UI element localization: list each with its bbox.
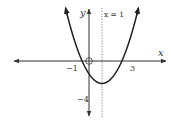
tick-label-3: 3: [130, 64, 135, 73]
tick-label-neg1: −1: [66, 64, 78, 73]
tick-label-neg4: −4: [77, 95, 89, 104]
x-axis-label: x: [158, 47, 164, 58]
parabola-graph: y x x = 1 −1 3 −4: [0, 0, 171, 123]
symmetry-label: x = 1: [104, 10, 124, 19]
y-axis-label: y: [79, 7, 86, 18]
